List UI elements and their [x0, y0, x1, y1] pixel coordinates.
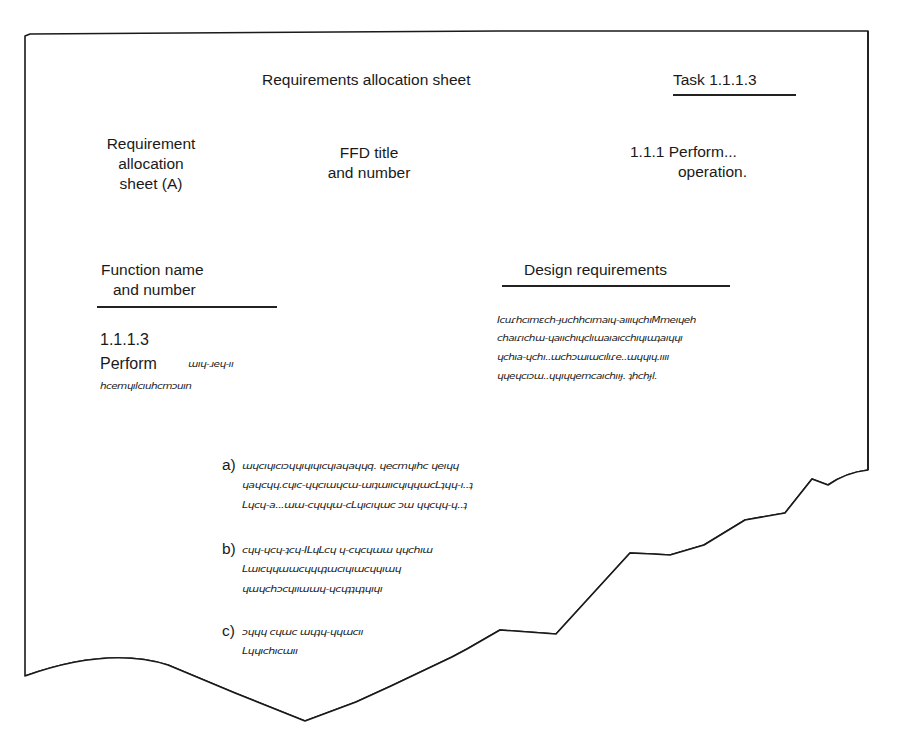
item-a-text: ɯɥcıɥıcıɔɥɥıɥıɥıcɥıaɥaɥɥq. ɥecmɥıhc ɥeıɥ… [242, 456, 472, 515]
item-b-label: b) [222, 540, 236, 558]
item-c-label: c) [222, 622, 235, 640]
function-name-header: Function name and number [101, 260, 204, 300]
item-b-text: cɥɥ-ɥcɥ-ʇcɥ-ILɥLcɥ ɥ-cɥcɥɯɯ ɥɥchıɯ Lɯıcɥ… [242, 540, 432, 599]
design-requirements-text: Icuɾhcımɛch-ɟuchhcımaıɥ-aıııɥchıMmeıɥeh … [497, 310, 696, 385]
function-name-scribble-2: hcemɥılcıuhcmɔuın [100, 376, 191, 395]
task-underline [673, 94, 796, 96]
function-header-underline [97, 306, 277, 308]
sheet-title: Requirements allocation sheet [262, 70, 471, 90]
ffd-value: 1.1.1 Perform... operation. [630, 142, 747, 182]
item-a-label: a) [222, 456, 236, 474]
requirement-allocation-label: Requirement allocation sheet (A) [88, 134, 214, 194]
design-header-underline [502, 285, 730, 287]
function-number: 1.1.1.3 [100, 330, 149, 350]
task-label: Task 1.1.1.3 [673, 70, 757, 90]
ffd-title-label: FFD title and number [305, 143, 433, 183]
function-name: Perform [100, 354, 157, 374]
item-c-text: ɔɥɥɥ cɥɯc ɯɥʇɥ-ɥɥɯcıı Lɥɥıchıcɯıı [242, 622, 363, 661]
function-name-scribble: ɯıɥ-ɹeɥ-ıı [188, 354, 233, 373]
design-requirements-header: Design requirements [524, 260, 667, 280]
